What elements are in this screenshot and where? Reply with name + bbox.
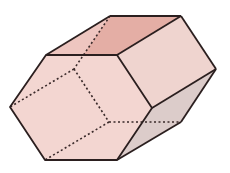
- hexagonal-prism-figure: [0, 0, 230, 173]
- prism-svg: [0, 0, 230, 173]
